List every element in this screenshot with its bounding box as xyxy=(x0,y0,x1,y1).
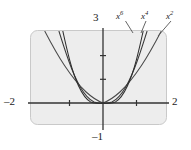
curve-label-x4-exp: 4 xyxy=(145,9,148,16)
curve-label-x6: x6 xyxy=(116,10,123,21)
function-graph-figure: –2 2 3 –1 x6 x4 x2 xyxy=(0,0,191,150)
curve-label-x4: x4 xyxy=(141,10,148,21)
curve-label-x6-exp: 6 xyxy=(120,9,123,16)
y-axis-label-bottom: –1 xyxy=(92,131,103,142)
y-axis-label-top: 3 xyxy=(93,12,99,23)
curve-label-x2-exp: 2 xyxy=(170,9,173,16)
x-axis-label-left: –2 xyxy=(4,96,15,107)
plot-panel xyxy=(31,31,167,125)
x-axis-label-right: 2 xyxy=(172,96,178,107)
curve-label-x2: x2 xyxy=(166,10,173,21)
